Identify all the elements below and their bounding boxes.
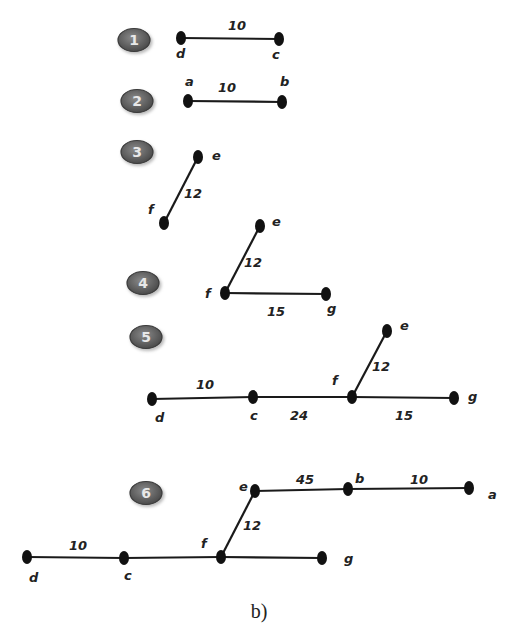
edge-e-b bbox=[255, 489, 348, 491]
edge-weight: 15 bbox=[267, 304, 285, 319]
node-g bbox=[321, 287, 331, 301]
node-c bbox=[119, 551, 129, 565]
step-5: 512102415efdcg bbox=[130, 318, 477, 425]
node-b bbox=[343, 482, 353, 496]
node-label: f bbox=[332, 373, 340, 388]
node-label: g bbox=[468, 389, 477, 404]
node-c bbox=[274, 32, 284, 46]
node-label: f bbox=[148, 202, 156, 217]
node-label: b bbox=[355, 471, 364, 486]
node-f bbox=[216, 550, 226, 564]
node-label: f bbox=[205, 286, 213, 301]
node-b bbox=[277, 95, 287, 109]
edge-weight: 10 bbox=[228, 18, 246, 33]
node-label: f bbox=[201, 536, 209, 551]
node-label: g bbox=[344, 551, 353, 566]
step-4: 41215efg bbox=[127, 214, 336, 319]
edge-weight: 12 bbox=[243, 518, 261, 533]
edge-weight: 10 bbox=[218, 80, 236, 95]
edge-f-g bbox=[221, 557, 322, 558]
edge-weight: 10 bbox=[410, 472, 428, 487]
node-e bbox=[193, 150, 203, 164]
step-number: 5 bbox=[141, 329, 151, 345]
node-label: a bbox=[185, 74, 194, 89]
node-g bbox=[317, 551, 327, 565]
edge-f-g bbox=[352, 397, 454, 398]
node-a bbox=[183, 94, 193, 108]
edge-weight: 45 bbox=[295, 472, 314, 487]
node-label: d bbox=[29, 570, 39, 585]
edge-b-a bbox=[348, 488, 469, 489]
node-e bbox=[250, 484, 260, 498]
edge-d-c bbox=[152, 397, 253, 399]
edge-weight: 10 bbox=[196, 377, 214, 392]
edge-d-c bbox=[181, 38, 279, 39]
node-label: a bbox=[488, 487, 497, 502]
node-f bbox=[347, 390, 357, 404]
node-label: d bbox=[155, 410, 165, 425]
node-label: e bbox=[272, 214, 281, 229]
edge-weight: 12 bbox=[372, 359, 390, 374]
node-label: c bbox=[272, 47, 280, 62]
figure-caption: b) bbox=[0, 600, 518, 623]
node-label: e bbox=[400, 318, 409, 333]
step-number: 2 bbox=[132, 93, 142, 109]
node-f bbox=[220, 286, 230, 300]
node-a bbox=[464, 481, 474, 495]
step-badge: 1 bbox=[118, 29, 153, 55]
edge-f-g bbox=[225, 293, 326, 294]
step-badge: 5 bbox=[130, 326, 165, 352]
edge-d-c bbox=[27, 557, 124, 558]
edge-weight: 12 bbox=[244, 255, 262, 270]
node-g bbox=[449, 391, 459, 405]
node-c bbox=[248, 390, 258, 404]
edge-a-b bbox=[188, 101, 282, 102]
edge-weight: 10 bbox=[69, 538, 87, 553]
node-d bbox=[22, 550, 32, 564]
step-number: 4 bbox=[138, 275, 148, 291]
node-label: d bbox=[176, 46, 186, 61]
edge-weight: 24 bbox=[290, 408, 308, 423]
node-label: e bbox=[239, 479, 248, 494]
node-e bbox=[255, 219, 265, 233]
node-f bbox=[159, 216, 169, 230]
step-3: 312ef bbox=[121, 141, 221, 231]
kruskal-mst-diagram: 110dc210ab312ef41215efg512102415efdcg645… bbox=[0, 0, 518, 642]
step-number: 3 bbox=[132, 144, 142, 160]
step-number: 6 bbox=[141, 485, 151, 501]
step-number: 1 bbox=[129, 32, 139, 48]
step-badge: 6 bbox=[130, 482, 165, 508]
node-label: b bbox=[280, 74, 289, 89]
step-2: 210ab bbox=[121, 74, 289, 115]
node-label: e bbox=[212, 148, 221, 163]
node-d bbox=[147, 392, 157, 406]
edge-weight: 15 bbox=[395, 408, 413, 423]
edge-weight: 12 bbox=[184, 186, 202, 201]
node-label: c bbox=[124, 568, 132, 583]
step-badge: 4 bbox=[127, 272, 162, 298]
node-label: g bbox=[327, 301, 336, 316]
edge-c-f bbox=[124, 557, 221, 558]
node-label: c bbox=[250, 408, 258, 423]
node-d bbox=[176, 31, 186, 45]
step-badge: 2 bbox=[121, 90, 156, 116]
step-badge: 3 bbox=[121, 141, 156, 167]
step-6: 645101210ebafdcg bbox=[22, 471, 497, 585]
step-1: 110dc bbox=[118, 18, 284, 62]
node-e bbox=[382, 324, 392, 338]
